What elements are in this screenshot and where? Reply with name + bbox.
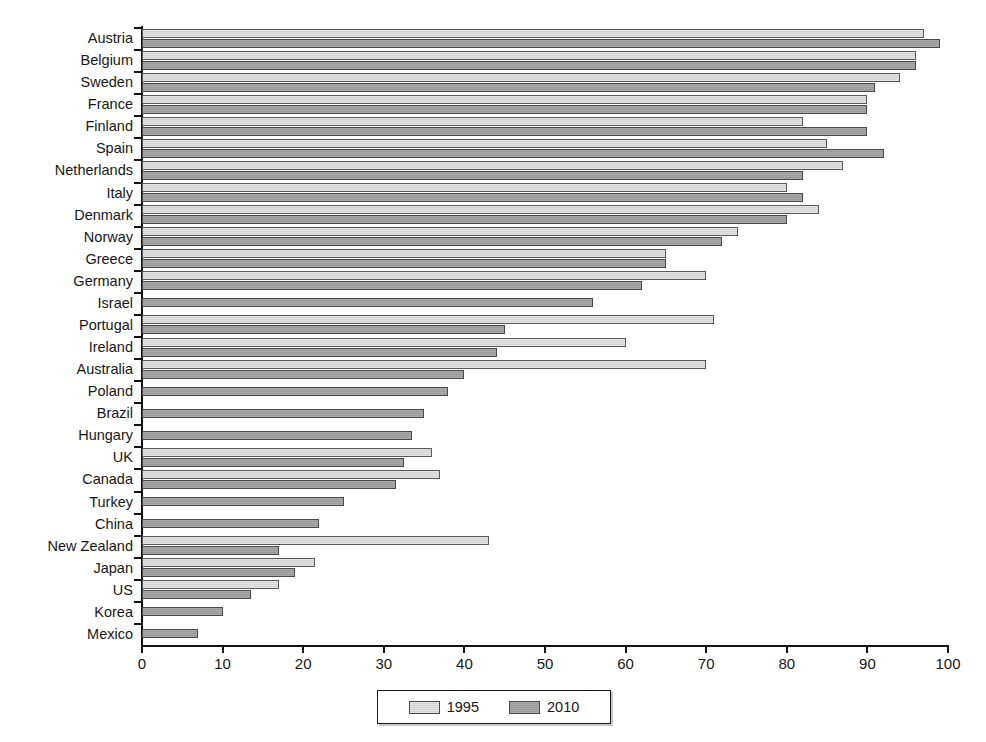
bar-finland-2010 [142,127,867,136]
category-label: Finland [85,119,133,134]
bar-us-2010 [142,590,251,599]
y-axis-tick [134,623,141,625]
bar-italy-2010 [142,193,803,202]
bar-china-2010 [142,519,319,528]
category-label: Brazil [97,406,133,421]
chart-row: Brazil [142,402,948,424]
category-label: Israel [98,296,133,311]
category-label: Italy [106,185,133,200]
bar-belgium-2010 [142,61,916,70]
bar-norway-2010 [142,237,722,246]
chart-row: Italy [142,182,948,204]
x-axis-tick [786,645,788,653]
chart-row: Mexico [142,623,948,645]
legend-swatch-1995 [409,701,440,714]
bar-canada-1995 [142,470,440,479]
bar-austria-1995 [142,29,924,38]
y-axis-tick [134,601,141,603]
category-label: Austria [88,31,133,46]
bar-uk-2010 [142,458,404,467]
chart-title [0,0,986,5]
bar-france-1995 [142,95,867,104]
chart-row: Denmark [142,204,948,226]
bar-australia-1995 [142,360,706,369]
y-axis-tick [134,380,141,382]
bar-denmark-1995 [142,205,819,214]
x-axis-tick [383,645,385,653]
bar-netherlands-2010 [142,171,803,180]
chart-row: Australia [142,358,948,380]
chart-row: Belgium [142,49,948,71]
x-axis-tick-label: 30 [375,655,392,672]
category-label: Norway [84,229,133,244]
legend-label-1995: 1995 [447,700,479,715]
y-axis-tick [134,468,141,470]
y-axis-tick [134,579,141,581]
y-axis-tick [134,27,141,29]
bar-denmark-2010 [142,215,787,224]
category-label: Japan [93,560,133,575]
category-label: Greece [85,251,133,266]
category-label: Korea [94,605,133,620]
category-label: France [88,97,133,112]
category-label: UK [113,450,133,465]
bar-finland-1995 [142,117,803,126]
category-label: Hungary [78,428,133,443]
x-axis-tick [544,645,546,653]
chart-row: Germany [142,270,948,292]
chart-row: Netherlands [142,159,948,181]
category-label: Mexico [87,627,133,642]
category-label: US [113,583,133,598]
x-axis-tick-label: 100 [935,655,960,672]
chart-row: China [142,513,948,535]
chart-row: France [142,93,948,115]
legend-item-2010: 2010 [509,700,579,715]
category-label: Spain [96,141,133,156]
bar-portugal-1995 [142,315,714,324]
y-axis-tick [134,314,141,316]
chart-row: UK [142,446,948,468]
category-label: China [95,516,133,531]
chart-row: Japan [142,557,948,579]
chart-row: Greece [142,248,948,270]
y-axis-tick [134,336,141,338]
category-label: Poland [88,384,133,399]
bar-turkey-2010 [142,497,344,506]
y-axis-tick [134,358,141,360]
legend-swatch-2010 [509,701,540,714]
y-axis-tick [134,137,141,139]
bar-germany-2010 [142,281,642,290]
x-axis-tick [141,645,143,653]
bar-sweden-2010 [142,83,875,92]
bar-ireland-2010 [142,348,497,357]
x-axis-tick-label: 80 [778,655,795,672]
bar-brazil-2010 [142,409,424,418]
bar-italy-1995 [142,183,787,192]
chart-legend: 1995 2010 [377,690,611,724]
bar-hungary-2010 [142,431,412,440]
y-axis-tick [134,226,141,228]
y-axis-tick [134,71,141,73]
bar-japan-2010 [142,568,295,577]
x-axis-tick-label: 0 [138,655,146,672]
y-axis-tick [134,248,141,250]
bar-us-1995 [142,580,279,589]
bar-norway-1995 [142,227,738,236]
chart-row: New Zealand [142,535,948,557]
bar-mexico-2010 [142,629,198,638]
legend-label-2010: 2010 [547,700,579,715]
chart-row: US [142,579,948,601]
y-axis-tick [134,115,141,117]
category-label: Canada [82,472,133,487]
plot-area: AustriaBelgiumSwedenFranceFinlandSpainNe… [142,27,948,645]
y-axis-tick [134,159,141,161]
bar-uk-1995 [142,448,432,457]
category-label: Netherlands [55,163,133,178]
category-label: Turkey [89,494,133,509]
y-axis-tick [134,513,141,515]
bar-austria-2010 [142,39,940,48]
y-axis-tick [134,491,141,493]
chart-row: Norway [142,226,948,248]
y-axis-tick [134,182,141,184]
y-axis-tick [134,424,141,426]
